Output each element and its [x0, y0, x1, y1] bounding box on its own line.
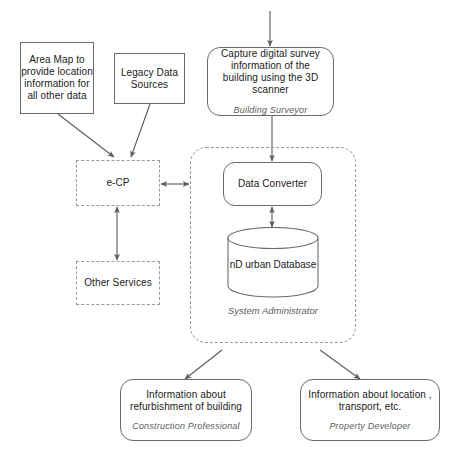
node-area-map-label: Area Map to provide location information… — [21, 54, 93, 101]
node-other-services-label: Other Services — [84, 277, 152, 289]
node-capture-survey-label: Capture digital survey information of th… — [214, 48, 327, 95]
region-system-administrator-caption: System Administrator — [196, 305, 350, 316]
node-capture-survey-role: Building Surveyor — [234, 105, 308, 115]
arrow-region-to-location-transport — [320, 350, 360, 379]
arrow-area-map-to-ecp — [58, 114, 114, 157]
node-location-transport[interactable]: Information about location , transport, … — [300, 379, 440, 441]
arrow-legacy-data-to-ecp — [131, 104, 150, 157]
figure-caption — [6, 461, 306, 470]
node-other-services[interactable]: Other Services — [76, 261, 160, 305]
node-refurbishment-role: Construction Professional — [132, 421, 240, 431]
node-location-transport-role: Property Developer — [329, 421, 410, 431]
node-capture-survey[interactable]: Capture digital survey information of th… — [207, 47, 334, 116]
node-legacy-data-sources[interactable]: Legacy Data Sources — [114, 53, 185, 104]
diagram-canvas: Area Map to provide location information… — [0, 0, 452, 471]
node-data-converter-label: Data Converter — [238, 178, 307, 190]
node-refurbishment[interactable]: Information about refurbishment of build… — [120, 379, 252, 441]
node-ecp-label: e-CP — [106, 177, 129, 189]
node-refurbishment-label: Information about refurbishment of build… — [126, 389, 246, 413]
node-database-label: nD urban Database — [227, 259, 319, 270]
node-data-converter[interactable]: Data Converter — [223, 162, 322, 206]
node-location-transport-label: Information about location , transport, … — [306, 389, 434, 413]
node-ecp[interactable]: e-CP — [76, 160, 160, 206]
node-legacy-data-sources-label: Legacy Data Sources — [115, 67, 184, 91]
arrow-region-to-refurbishment — [185, 350, 222, 379]
node-area-map[interactable]: Area Map to provide location information… — [20, 42, 94, 114]
